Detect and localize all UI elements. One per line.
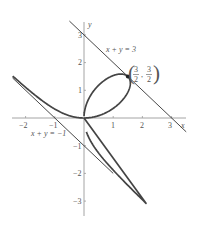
y-tick-label: −1 — [73, 142, 82, 151]
frac-den-x: 2 — [134, 75, 138, 84]
x-tick-label: 2 — [140, 121, 144, 130]
x-tick-label: 3 — [168, 121, 172, 130]
svg-text:): ) — [153, 61, 160, 85]
frac-num-x: 3 — [134, 65, 138, 74]
x-tick-label: −2 — [19, 121, 28, 130]
y-tick-label: 1 — [78, 86, 82, 95]
frac-den-y: 2 — [147, 75, 151, 84]
y-tick-label: −3 — [73, 197, 82, 206]
y-tick-label: −2 — [73, 169, 82, 178]
line-lower-label: x + y = −1 — [30, 129, 66, 138]
y-axis-label: y — [87, 20, 92, 29]
frac-num-y: 3 — [147, 65, 151, 74]
comma: , — [141, 70, 143, 79]
point-label: ( 3 2 , 3 2 ) — [128, 61, 160, 85]
x-tick-label: 1 — [111, 121, 115, 130]
line-x-plus-y-eq-minus-1 — [12, 78, 113, 174]
folium-plot: −2 −1 1 2 3 x 3 2 1 −1 −2 −3 y x + y = 3… — [0, 0, 197, 225]
y-tick-label: 2 — [78, 58, 82, 67]
line-upper-label: x + y = 3 — [105, 45, 136, 54]
